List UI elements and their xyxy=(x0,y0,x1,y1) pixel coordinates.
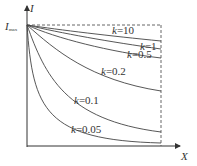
chart: I X Imax k=10 k=1 k=0.5 k=0.2 k=0.1 k=0.… xyxy=(0,0,197,166)
label-k-0.2: k=0.2 xyxy=(101,65,126,77)
x-axis-label: X xyxy=(180,150,189,162)
label-k-10: k=10 xyxy=(112,24,135,36)
label-k-0.1: k=0.1 xyxy=(74,94,99,106)
label-k-0.5: k=0.5 xyxy=(127,48,152,60)
y-axis-label: I xyxy=(29,2,35,14)
label-k-0.05: k=0.05 xyxy=(71,123,102,135)
imax-label: Imax xyxy=(4,20,18,32)
